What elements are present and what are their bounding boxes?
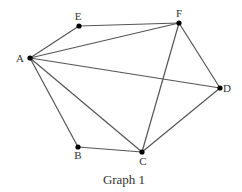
vertex-a	[27, 55, 32, 60]
edge-d-c	[142, 88, 220, 152]
vertex-e	[76, 23, 81, 28]
vertex-label-b: B	[74, 149, 81, 161]
graph-caption: Graph 1	[103, 172, 145, 187]
vertex-d	[217, 85, 222, 90]
edge-a-d	[30, 58, 220, 88]
vertex-labels-group: AEFDCB	[16, 7, 231, 167]
graph-canvas: AEFDCB Graph 1	[0, 0, 242, 192]
edge-f-c	[142, 23, 179, 152]
vertex-label-a: A	[16, 52, 24, 64]
edge-a-f	[30, 23, 179, 58]
edge-e-f	[79, 23, 179, 26]
graph-figure: AEFDCB Graph 1	[0, 0, 242, 192]
edge-b-c	[78, 147, 142, 152]
edge-f-d	[179, 23, 220, 88]
vertex-label-f: F	[176, 7, 182, 19]
vertex-c	[139, 149, 144, 154]
edges-group	[30, 23, 220, 152]
vertex-label-d: D	[223, 82, 231, 94]
edge-a-e	[30, 26, 79, 58]
vertex-label-e: E	[75, 10, 82, 22]
vertex-f	[176, 20, 181, 25]
edge-a-c	[30, 58, 142, 152]
edge-a-b	[30, 58, 78, 147]
vertex-label-c: C	[139, 155, 146, 167]
